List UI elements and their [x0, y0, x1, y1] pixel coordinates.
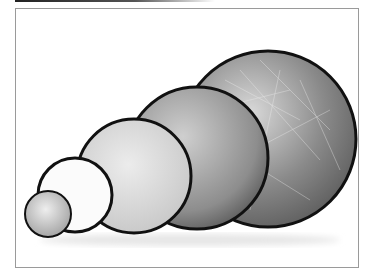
- disc-1: [25, 191, 71, 237]
- reflector-photo: [0, 0, 373, 278]
- floor-shadow: [40, 234, 340, 246]
